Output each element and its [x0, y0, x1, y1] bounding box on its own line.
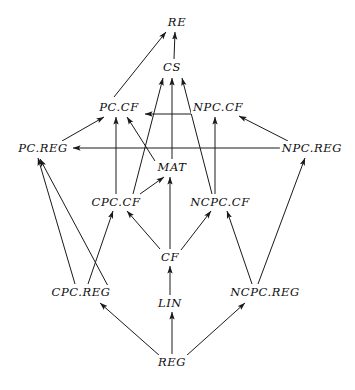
edge-NCPCCF-to-CS: [182, 78, 212, 194]
node-cs[interactable]: CS: [161, 60, 183, 74]
node-cpcreg[interactable]: CPC.REG: [49, 285, 112, 299]
node-mat[interactable]: MAT: [156, 160, 189, 174]
edge-REG-to-NCPCREG: [186, 303, 245, 356]
edge-NCPCREG-to-NCPCCF: [227, 211, 252, 284]
node-ncpccf[interactable]: NCPC.CF: [188, 195, 252, 209]
edge-CPCCF-to-MAT: [140, 177, 164, 194]
edge-PCCF-to-RE: [114, 32, 166, 97]
node-npccf[interactable]: NPC.CF: [191, 100, 245, 114]
edge-layer: [0, 0, 355, 390]
edge-NPCREG-to-NPCCF: [239, 116, 288, 141]
node-npcreg[interactable]: NPC.REG: [280, 141, 344, 155]
edge-CF-to-CPCCF: [127, 211, 160, 249]
edge-REG-to-CPCREG: [100, 303, 160, 356]
node-re[interactable]: RE: [166, 15, 188, 29]
node-pccf[interactable]: PC.CF: [97, 100, 141, 114]
node-cpccf[interactable]: CPC.CF: [90, 195, 143, 209]
inclusion-diagram: RECSPC.CFNPC.CFPC.REGNPC.REGMATCPC.CFNCP…: [0, 0, 355, 390]
edge-NCPCREG-to-NPCREG: [258, 158, 305, 284]
node-lin[interactable]: LIN: [156, 296, 184, 310]
node-cf[interactable]: CF: [159, 250, 181, 264]
edge-PCREG-to-PCCF: [62, 117, 104, 141]
edge-CPCREG-to-PCREG: [38, 158, 75, 284]
node-pcreg[interactable]: PC.REG: [16, 141, 70, 155]
edge-LIN-to-PCREG: [40, 159, 108, 286]
edge-CPCCF-to-CS: [133, 78, 163, 194]
edge-CS-to-RE: [174, 32, 175, 59]
node-reg[interactable]: REG: [156, 355, 188, 369]
edge-CF-to-NCPCCF: [181, 211, 211, 250]
node-ncpcreg[interactable]: NCPC.REG: [228, 285, 302, 299]
